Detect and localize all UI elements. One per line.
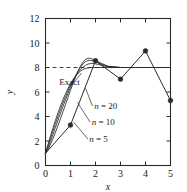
y-tick-label: 0: [35, 160, 40, 171]
y-tick-label: 6: [35, 87, 40, 98]
data-point-marker: [168, 98, 173, 103]
data-point-marker: [118, 77, 123, 82]
x-tick-label: 0: [43, 168, 48, 179]
x-tick-label: 3: [118, 168, 123, 179]
chart-figure: 024681012012345xyExactn = 20n = 10n = 5: [0, 0, 187, 192]
x-tick-label: 1: [68, 168, 73, 179]
y-axis-title: y: [4, 89, 15, 95]
n10-label: n = 10: [92, 117, 116, 127]
y-tick-label: 8: [35, 62, 40, 73]
data-point-marker: [143, 49, 148, 54]
data-point-marker: [93, 58, 98, 63]
exact-label: Exact: [59, 77, 80, 87]
n20-label: n = 20: [94, 101, 118, 111]
x-tick-label: 4: [143, 168, 148, 179]
x-axis-title: x: [105, 181, 111, 192]
y-tick-label: 12: [30, 13, 40, 24]
leader-line: [78, 102, 91, 122]
plot-frame: [46, 19, 171, 166]
x-tick-label: 2: [93, 168, 98, 179]
x-tick-label: 5: [168, 168, 173, 179]
y-tick-label: 10: [30, 38, 40, 49]
n5-label: n = 5: [89, 134, 108, 144]
line-chart: 024681012012345xyExactn = 20n = 10n = 5: [0, 0, 187, 192]
leader-line: [86, 88, 93, 106]
leader-line: [74, 122, 89, 139]
y-tick-label: 2: [35, 136, 40, 147]
y-tick-label: 4: [35, 111, 40, 122]
data-point-marker: [68, 123, 73, 128]
